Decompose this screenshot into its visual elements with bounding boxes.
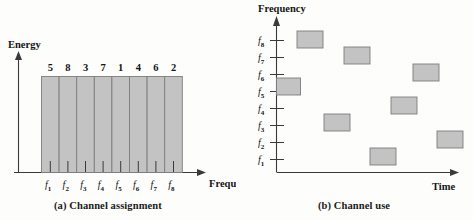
y-axis xyxy=(15,51,22,172)
bar-label-f1: 5 xyxy=(48,62,53,73)
x-tick-label-f6: f6 xyxy=(133,179,140,193)
panel-channel-assignment: Energy Frequency xyxy=(0,0,236,220)
bar-label-f8: 2 xyxy=(171,62,176,73)
bar-label-f5: 1 xyxy=(118,62,123,73)
y-tick-labels: f8 f7 f6 f5 f4 f3 f2 f1 xyxy=(258,35,265,168)
data-box-f4 xyxy=(391,97,417,114)
bar-value-labels: 5 8 3 7 1 4 6 2 xyxy=(48,62,176,73)
bar-label-f2: 8 xyxy=(65,62,70,73)
x-axis-label-time: Time xyxy=(432,181,455,192)
y-tick-label-f2: f2 xyxy=(258,137,265,151)
bar-label-f3: 3 xyxy=(83,62,88,73)
data-box-f2 xyxy=(437,131,463,148)
bar-f4 xyxy=(94,77,112,173)
bar-f5 xyxy=(112,77,130,173)
chart-channel-assignment: Energy Frequency xyxy=(0,0,236,196)
x-tick-labels: f1 f2 f3 f4 f5 f6 f7 f8 xyxy=(45,179,175,193)
y-tick-label-f6: f6 xyxy=(258,69,265,83)
chart-channel-use: Frequency Time xyxy=(236,0,473,196)
bar-group xyxy=(42,77,183,173)
caption-panel-b: (b) Channel use xyxy=(318,200,390,211)
x-tick-label-f5: f5 xyxy=(115,179,122,193)
x-tick-label-f2: f2 xyxy=(63,179,70,193)
x-tick-label-f7: f7 xyxy=(151,179,158,193)
data-box-f3 xyxy=(324,114,350,131)
y-tick-label-f4: f4 xyxy=(258,103,265,117)
bar-f7 xyxy=(147,77,165,173)
x-axis-label-frequency: Frequency xyxy=(209,178,236,189)
data-box-f5 xyxy=(277,78,301,95)
x-tick-label-f8: f8 xyxy=(168,179,175,193)
y-axis-label-energy: Energy xyxy=(8,39,41,50)
data-box-f7 xyxy=(344,47,370,64)
y-tick-label-f1: f1 xyxy=(258,154,265,168)
bar-label-f7: 6 xyxy=(153,62,158,73)
bar-f3 xyxy=(77,77,95,173)
data-box-f8 xyxy=(297,31,323,48)
data-box-group xyxy=(277,31,464,165)
bar-f8 xyxy=(165,77,183,173)
panel-channel-use: Frequency Time xyxy=(236,0,473,220)
x-tick-label-f3: f3 xyxy=(80,179,87,193)
bar-label-f6: 4 xyxy=(136,62,142,73)
y-axis-label-frequency: Frequency xyxy=(258,3,306,14)
data-box-f6 xyxy=(413,64,439,81)
x-axis xyxy=(277,169,460,176)
figure-frequency-hopping: Energy Frequency xyxy=(0,0,473,220)
bar-f1 xyxy=(42,77,60,173)
bar-f2 xyxy=(59,77,77,173)
bar-f6 xyxy=(130,77,148,173)
y-tick-label-f8: f8 xyxy=(258,35,265,49)
caption-panel-a: (a) Channel assignment xyxy=(54,200,162,211)
y-tick-label-f5: f5 xyxy=(258,86,265,100)
x-tick-label-f4: f4 xyxy=(98,179,105,193)
bar-label-f4: 7 xyxy=(100,62,105,73)
data-box-f1 xyxy=(370,148,396,165)
x-tick-label-f1: f1 xyxy=(45,179,52,193)
y-tick-label-f7: f7 xyxy=(258,52,265,66)
y-tick-label-f3: f3 xyxy=(258,120,265,134)
